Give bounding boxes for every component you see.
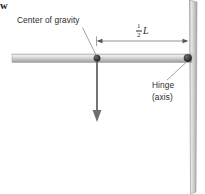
length-symbol: L <box>143 25 149 36</box>
dimension-arrowhead-left <box>97 39 103 43</box>
leader-line-center-of-gravity <box>83 28 97 56</box>
hinge-label: Hinge (axis) <box>152 80 174 103</box>
leader-line-hinge <box>167 63 186 81</box>
physics-figure-rod-hinge: Center of gravity Hinge (axis) 1 2 L w <box>0 0 205 194</box>
hinge-label-line2: (axis) <box>152 92 174 104</box>
wall-support <box>190 0 198 194</box>
half-length-label: 1 2 L <box>136 22 149 38</box>
dimension-arrowhead-right <box>183 39 189 43</box>
hinge-label-line1: Hinge <box>152 80 174 92</box>
figure-canvas <box>0 0 205 194</box>
hinge-dot <box>184 54 192 62</box>
fraction-denominator: 2 <box>136 31 142 39</box>
weight-arrowhead <box>93 110 102 122</box>
center-of-gravity-label: Center of gravity <box>17 15 80 25</box>
fraction-numerator: 1 <box>136 23 142 31</box>
rod-beam <box>12 54 192 63</box>
one-half-fraction: 1 2 <box>136 23 142 39</box>
center-of-gravity-dot <box>94 55 101 62</box>
weight-vector-arrow <box>93 58 102 122</box>
